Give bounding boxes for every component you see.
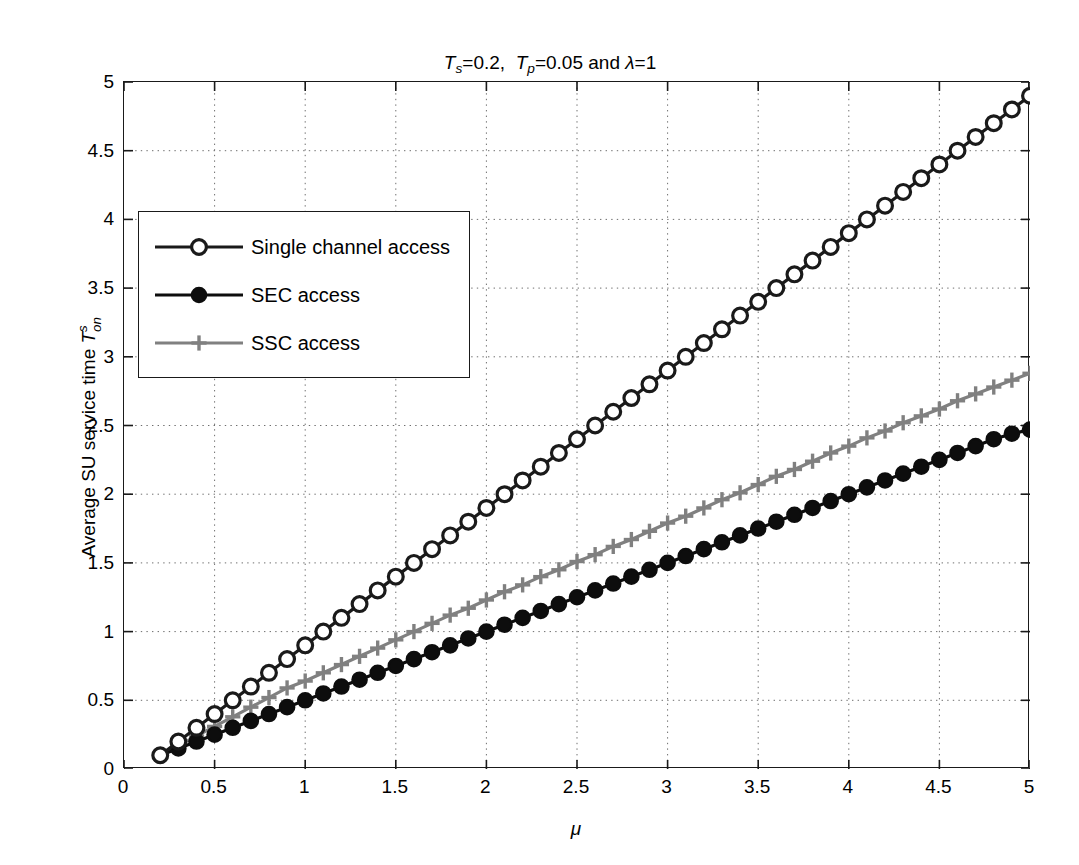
- data-marker: [244, 714, 258, 728]
- data-marker: [896, 466, 910, 480]
- legend-item-sec-access[interactable]: SEC access: [139, 272, 471, 318]
- data-marker: [352, 672, 366, 686]
- data-marker: [715, 535, 729, 549]
- data-marker: [678, 349, 693, 364]
- x-tick-label: 1: [269, 777, 339, 796]
- data-marker: [515, 473, 530, 488]
- data-marker: [950, 143, 965, 158]
- data-marker: [751, 521, 765, 535]
- y-tick-label: 4.5: [54, 140, 114, 159]
- data-marker: [298, 638, 313, 653]
- data-marker: [370, 583, 385, 598]
- legend-item-label: SSC access: [251, 332, 360, 355]
- data-marker: [805, 501, 819, 515]
- data-marker: [733, 308, 748, 323]
- data-marker: [280, 652, 295, 667]
- data-marker: [787, 267, 802, 282]
- data-marker: [987, 432, 1001, 446]
- figure-canvas: Ts=0.2, Tp=0.05 and λ=1 Average SU servi…: [0, 0, 1079, 865]
- legend-marker-icon: [153, 280, 245, 310]
- data-marker: [624, 569, 638, 583]
- data-marker: [1004, 102, 1019, 117]
- y-tick-label: 1.5: [54, 552, 114, 571]
- data-marker: [533, 459, 548, 474]
- x-tick-label: 0.5: [179, 777, 249, 796]
- data-marker: [225, 693, 240, 708]
- title-Tp-subscript: p: [527, 61, 535, 76]
- title-Ts-symbol: T: [444, 52, 456, 73]
- data-marker: [153, 748, 168, 763]
- x-tick-label: 4.5: [903, 777, 973, 796]
- data-marker: [787, 508, 801, 522]
- y-tick-label: 0: [54, 759, 114, 778]
- data-marker: [497, 618, 511, 632]
- data-marker: [769, 281, 784, 296]
- data-marker: [207, 707, 222, 722]
- data-marker: [570, 590, 584, 604]
- y-tick-label: 2.5: [54, 415, 114, 434]
- data-marker: [878, 198, 893, 213]
- data-marker: [479, 624, 493, 638]
- data-marker: [642, 563, 656, 577]
- x-axis-label: μ: [123, 818, 1029, 840]
- data-marker: [207, 727, 221, 741]
- data-marker: [192, 240, 207, 255]
- data-marker: [715, 322, 730, 337]
- x-tick-label: 4: [813, 777, 883, 796]
- data-marker: [551, 446, 566, 461]
- data-marker: [226, 721, 240, 735]
- data-marker: [697, 542, 711, 556]
- data-marker: [316, 624, 331, 639]
- legend-item-single-channel-access[interactable]: Single channel access: [139, 224, 471, 270]
- data-marker: [588, 583, 602, 597]
- x-tick-label: 5: [994, 777, 1064, 796]
- x-tick-label: 2.5: [541, 777, 611, 796]
- y-axis-tick-labels: 00.511.522.533.544.55: [46, 81, 114, 768]
- data-marker: [751, 294, 766, 309]
- data-marker: [588, 418, 603, 433]
- data-marker: [968, 130, 983, 145]
- data-marker: [262, 707, 276, 721]
- y-tick-label: 2: [54, 484, 114, 503]
- x-axis-tick-labels: 00.511.522.533.544.55: [123, 777, 1029, 807]
- data-marker: [334, 610, 349, 625]
- data-marker: [696, 336, 711, 351]
- legend-marker-icon: [153, 232, 245, 262]
- data-marker: [1023, 88, 1030, 103]
- legend-item-label: SEC access: [251, 284, 360, 307]
- data-marker: [389, 659, 403, 673]
- data-marker: [841, 226, 856, 241]
- data-marker: [805, 253, 820, 268]
- data-marker: [461, 631, 475, 645]
- data-marker: [189, 720, 204, 735]
- data-marker: [461, 514, 476, 529]
- data-marker: [878, 473, 892, 487]
- data-marker: [280, 700, 294, 714]
- y-tick-label: 1: [54, 621, 114, 640]
- plot-svg: [124, 82, 1030, 769]
- title-lambda-value: =1: [635, 52, 657, 73]
- data-marker: [1023, 422, 1030, 436]
- x-tick-label: 3: [632, 777, 702, 796]
- series-sec-access: [153, 422, 1030, 762]
- data-marker: [352, 597, 367, 612]
- y-tick-label: 3.5: [54, 278, 114, 297]
- data-marker: [842, 487, 856, 501]
- data-marker: [860, 480, 874, 494]
- data-marker: [986, 116, 1001, 131]
- data-marker: [407, 556, 422, 571]
- data-marker: [298, 693, 312, 707]
- legend-item-label: Single channel access: [251, 236, 450, 259]
- data-marker: [192, 288, 206, 302]
- legend-item-ssc-access[interactable]: SSC access: [139, 320, 471, 366]
- data-marker: [896, 185, 911, 200]
- data-marker: [425, 542, 440, 557]
- data-marker: [860, 212, 875, 227]
- y-tick-label: 5: [54, 72, 114, 91]
- data-marker: [443, 638, 457, 652]
- x-tick-label: 3.5: [722, 777, 792, 796]
- data-marker: [171, 734, 186, 749]
- data-marker: [552, 597, 566, 611]
- plot-area: [123, 81, 1029, 768]
- data-marker: [914, 171, 929, 186]
